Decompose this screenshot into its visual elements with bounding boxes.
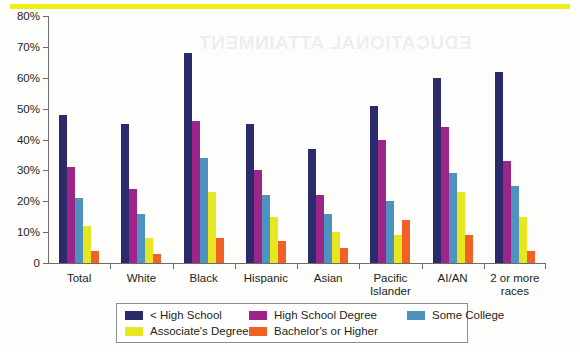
bar	[184, 53, 192, 263]
legend-item-label: Some College	[432, 309, 504, 321]
y-axis-tick-label: 0	[34, 257, 40, 269]
y-axis-tick	[43, 78, 48, 79]
y-axis-tick	[43, 201, 48, 202]
x-axis-category-label: 2 or more races	[484, 272, 546, 298]
legend-item-label: Associate's Degree	[150, 325, 249, 337]
bar	[511, 186, 519, 263]
bar	[216, 238, 224, 263]
legend-swatch-icon	[125, 327, 143, 336]
bar	[145, 238, 153, 263]
bar	[91, 251, 99, 263]
legend-item-label: Bachelor's or Higher	[274, 325, 378, 337]
y-axis-tick	[43, 47, 48, 48]
bar	[278, 241, 286, 263]
y-axis-line	[48, 16, 49, 264]
x-axis-separator	[422, 264, 423, 269]
x-axis-separator	[545, 264, 546, 269]
bar	[254, 170, 262, 263]
chart-legend: < High SchoolHigh School DegreeSome Coll…	[116, 303, 468, 343]
y-axis-tick-label: 70%	[17, 41, 40, 53]
legend-item[interactable]: < High School	[125, 309, 249, 321]
bar	[246, 124, 254, 263]
legend-item-label: < High School	[150, 309, 222, 321]
x-axis-category-label: AI/AN	[422, 272, 484, 285]
bar	[386, 201, 394, 263]
bar	[340, 248, 348, 263]
bar	[200, 158, 208, 263]
bar	[519, 217, 527, 263]
bar	[121, 124, 129, 263]
y-axis-tick-label: 40%	[17, 134, 40, 146]
x-axis-category-label: Total	[48, 272, 110, 285]
x-axis-category-label: White	[110, 272, 172, 285]
legend-item[interactable]: Associate's Degree	[125, 325, 249, 337]
x-axis-separator	[359, 264, 360, 269]
legend-item[interactable]: Some College	[407, 309, 504, 321]
bar	[402, 220, 410, 263]
legend-item[interactable]: Bachelor's or Higher	[249, 325, 407, 337]
y-axis-tick	[43, 109, 48, 110]
bar	[137, 214, 145, 263]
bar	[503, 161, 511, 263]
legend-swatch-icon	[249, 311, 267, 320]
bar	[316, 195, 324, 263]
bar	[433, 78, 441, 263]
bar	[527, 251, 535, 263]
bar	[153, 254, 161, 263]
y-axis-tick-label: 30%	[17, 164, 40, 176]
bar	[262, 195, 270, 263]
y-axis-tick	[43, 16, 48, 17]
bar	[75, 198, 83, 263]
y-axis-tick-label: 20%	[17, 195, 40, 207]
bar	[495, 72, 503, 263]
x-axis-category-label: Black	[173, 272, 235, 285]
bar	[394, 235, 402, 263]
bar-group	[59, 115, 99, 263]
bar	[332, 232, 340, 263]
bar	[449, 173, 457, 263]
y-axis-tick-label: 60%	[17, 72, 40, 84]
bar	[370, 106, 378, 263]
bar-group	[370, 106, 410, 263]
bar-chart: 010%20%30%40%50%60%70%80% TotalWhiteBlac…	[48, 16, 546, 264]
y-axis-tick	[43, 170, 48, 171]
legend-swatch-icon	[407, 311, 425, 320]
y-axis-tick	[43, 140, 48, 141]
x-axis-separator	[297, 264, 298, 269]
bar-group	[308, 149, 348, 263]
bar	[457, 192, 465, 263]
x-axis-separator	[110, 264, 111, 269]
bar-group	[246, 124, 286, 263]
top-rule-divider	[10, 4, 570, 9]
bar	[465, 235, 473, 263]
bar	[129, 189, 137, 263]
y-axis-tick	[43, 263, 48, 264]
bar	[59, 115, 67, 263]
bar	[378, 140, 386, 264]
x-axis-separator	[484, 264, 485, 269]
bar	[308, 149, 316, 263]
legend-swatch-icon	[125, 311, 143, 320]
bar-group	[495, 72, 535, 263]
bar	[324, 214, 332, 263]
y-axis-tick-label: 80%	[17, 10, 40, 22]
legend-item-label: High School Degree	[274, 309, 377, 321]
y-axis-tick-label: 10%	[17, 226, 40, 238]
bar	[67, 167, 75, 263]
x-axis-separator	[173, 264, 174, 269]
bar	[270, 217, 278, 263]
y-axis-tick-label: 50%	[17, 103, 40, 115]
x-axis-category-label: Hispanic	[235, 272, 297, 285]
legend-item[interactable]: High School Degree	[249, 309, 407, 321]
bar	[441, 127, 449, 263]
bar-group	[121, 124, 161, 263]
legend-swatch-icon	[249, 327, 267, 336]
x-axis-separator	[235, 264, 236, 269]
x-axis-category-label: Pacific Islander	[359, 272, 421, 298]
bar-group	[433, 78, 473, 263]
bar-group	[184, 53, 224, 263]
bar	[83, 226, 91, 263]
bar	[208, 192, 216, 263]
bar	[192, 121, 200, 263]
y-axis-tick	[43, 232, 48, 233]
